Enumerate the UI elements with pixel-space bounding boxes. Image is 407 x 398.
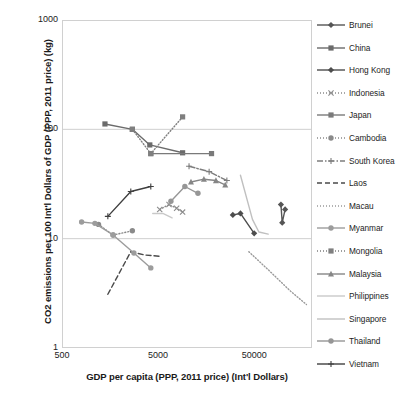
- data-point-marker: [328, 248, 333, 253]
- data-point-marker: [328, 135, 333, 140]
- legend-label: Macau: [346, 201, 374, 211]
- data-point-marker: [102, 121, 107, 126]
- legend-item-cambodia[interactable]: Cambodia: [316, 131, 407, 145]
- legend-label: Mongolia: [346, 246, 382, 256]
- plot-frame: [63, 21, 312, 348]
- x-tick-50000: 50000: [224, 350, 284, 360]
- data-point-marker: [209, 151, 214, 156]
- data-point-marker: [148, 265, 153, 270]
- plot-svg: [62, 20, 312, 348]
- y-tick-100: 100: [18, 123, 58, 133]
- legend-key-none-icon: [316, 290, 346, 302]
- data-point-marker: [130, 228, 135, 233]
- legend-item-singapore[interactable]: Singapore: [316, 312, 407, 326]
- legend-item-philippines[interactable]: Philippines: [316, 289, 407, 303]
- legend-key-diamond-icon: [316, 64, 346, 76]
- legend-item-laos[interactable]: Laos: [316, 176, 407, 190]
- data-point-marker: [328, 22, 334, 28]
- data-point-marker: [79, 219, 84, 224]
- x-axis-title: GDP per capita (PPP, 2011 price) (Int'l …: [62, 371, 312, 382]
- data-point-marker: [195, 191, 200, 196]
- data-point-marker: [328, 67, 334, 73]
- data-point-marker: [328, 158, 334, 164]
- legend-label: Japan: [346, 110, 371, 120]
- legend-item-vietnam[interactable]: Vietnam: [316, 357, 407, 371]
- data-point-marker: [182, 184, 187, 189]
- legend-key-square-icon: [316, 245, 346, 257]
- data-point-marker: [168, 199, 173, 204]
- legend-label: Brunei: [346, 20, 373, 30]
- legend-label: China: [346, 43, 370, 53]
- legend-label: Indonesia: [346, 88, 385, 98]
- data-point-marker: [180, 150, 185, 155]
- data-point-marker: [328, 339, 333, 344]
- legend-label: Hong Kong: [346, 65, 390, 75]
- data-point-marker: [328, 113, 333, 118]
- legend-item-hong-kong[interactable]: Hong Kong: [316, 63, 407, 77]
- legend-label: Cambodia: [346, 133, 386, 143]
- data-point-marker: [328, 45, 333, 50]
- legend-item-japan[interactable]: Japan: [316, 108, 407, 122]
- data-point-marker: [148, 151, 153, 156]
- data-point-marker: [328, 226, 333, 231]
- legend-item-mongolia[interactable]: Mongolia: [316, 244, 407, 258]
- legend-key-circle-icon: [316, 222, 346, 234]
- y-tick-1000: 1000: [18, 14, 58, 24]
- data-point-marker: [110, 232, 115, 237]
- legend-item-thailand[interactable]: Thailand: [316, 334, 407, 348]
- x-tick-5000: 5000: [128, 350, 188, 360]
- legend-key-none-icon: [316, 313, 346, 325]
- legend-label: Thailand: [346, 336, 380, 346]
- data-point-marker: [92, 221, 97, 226]
- plot-area: [62, 20, 312, 348]
- data-point-marker: [131, 250, 136, 255]
- legend-label: Laos: [346, 178, 367, 188]
- legend-key-none-icon: [316, 200, 346, 212]
- legend-label: Vietnam: [346, 359, 379, 369]
- legend-label: Malaysia: [346, 269, 381, 279]
- legend-key-x-icon: [316, 87, 346, 99]
- legend-key-square-icon: [316, 109, 346, 121]
- data-point-marker: [328, 361, 334, 367]
- legend-key-plus-icon: [316, 155, 346, 167]
- legend-key-circle-icon: [316, 132, 346, 144]
- legend-item-myanmar[interactable]: Myanmar: [316, 221, 407, 235]
- legend-label: Philippines: [346, 291, 389, 301]
- chart-legend: BruneiChinaHong KongIndonesiaJapanCambod…: [316, 18, 407, 383]
- legend-item-south-korea[interactable]: South Korea: [316, 154, 407, 168]
- y-tick-10: 10: [18, 233, 58, 243]
- legend-item-malaysia[interactable]: Malaysia: [316, 267, 407, 281]
- legend-item-macau[interactable]: Macau: [316, 199, 407, 213]
- legend-key-plus-icon: [316, 358, 346, 370]
- legend-label: Singapore: [346, 314, 386, 324]
- legend-key-none-icon: [316, 177, 346, 189]
- legend-key-diamond-icon: [316, 19, 346, 31]
- data-point-marker: [147, 142, 152, 147]
- chart-figure: CO2 emissions per 100 Int'l Dollars of G…: [0, 0, 407, 398]
- legend-item-indonesia[interactable]: Indonesia: [316, 86, 407, 100]
- legend-key-square-icon: [316, 42, 346, 54]
- legend-item-brunei[interactable]: Brunei: [316, 18, 407, 32]
- x-tick-500: 500: [32, 350, 92, 360]
- legend-key-triangle-icon: [316, 268, 346, 280]
- legend-label: Myanmar: [346, 223, 383, 233]
- data-point-marker: [130, 127, 135, 132]
- legend-label: South Korea: [346, 156, 395, 166]
- data-point-marker: [180, 114, 185, 119]
- legend-key-circle-icon: [316, 335, 346, 347]
- y-axis-tick-labels: 1000100101: [14, 0, 58, 398]
- legend-item-china[interactable]: China: [316, 41, 407, 55]
